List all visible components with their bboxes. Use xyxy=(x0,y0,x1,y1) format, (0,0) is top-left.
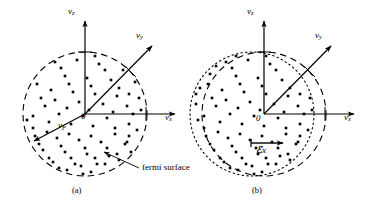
electron-state-point xyxy=(84,147,87,150)
electron-state-point xyxy=(36,83,39,86)
electron-state-point xyxy=(50,89,53,92)
electron-state-point xyxy=(231,145,234,148)
electron-state-point xyxy=(94,93,97,96)
electron-state-point xyxy=(132,113,135,116)
electron-state-point xyxy=(271,141,274,144)
electron-state-point xyxy=(136,129,139,132)
electron-state-point xyxy=(261,135,264,138)
electron-state-point xyxy=(205,135,208,138)
electron-state-point xyxy=(108,155,111,158)
electron-state-point xyxy=(229,167,232,170)
electron-state-point xyxy=(245,163,248,166)
electron-state-point xyxy=(243,91,246,94)
electron-state-point xyxy=(247,59,250,62)
electron-state-point xyxy=(235,151,238,154)
electron-state-point xyxy=(225,61,228,64)
electron-state-point xyxy=(128,135,131,138)
electron-state-point xyxy=(213,149,216,152)
electron-state-point xyxy=(90,171,93,174)
electron-state-point xyxy=(48,157,51,160)
electron-state-point xyxy=(122,69,125,72)
electron-state-point xyxy=(265,93,268,96)
panel-a-caption: (a) xyxy=(72,186,81,195)
panel-b-caption: (b) xyxy=(252,186,262,195)
electron-state-point xyxy=(275,163,278,166)
panel-b-vy-axis-label: vy xyxy=(315,31,322,41)
electron-state-point xyxy=(54,61,57,64)
electron-state-point xyxy=(237,107,240,110)
electron-state-point xyxy=(277,117,280,120)
electron-state-point xyxy=(195,103,198,106)
electron-state-point xyxy=(114,133,117,136)
electron-state-point xyxy=(283,111,286,114)
panel-a-graphic xyxy=(23,21,175,176)
electron-state-point xyxy=(138,97,141,100)
electron-state-point xyxy=(92,125,95,128)
electron-state-point xyxy=(287,95,290,98)
panel-b-field-label: ℰx xyxy=(256,146,266,156)
electron-state-point xyxy=(253,173,256,176)
electron-state-point xyxy=(261,171,264,174)
electron-state-point xyxy=(80,165,83,168)
panel-b-origin-label: 0 xyxy=(256,114,261,123)
electron-state-point xyxy=(104,163,107,166)
electron-state-point xyxy=(54,99,57,102)
electron-state-point xyxy=(239,83,242,86)
electron-state-point xyxy=(38,143,41,146)
electron-state-point xyxy=(82,173,85,176)
electron-state-point xyxy=(126,105,129,108)
electron-state-point xyxy=(106,147,109,150)
panel-a-vz-axis-label: vz xyxy=(68,7,75,17)
electron-state-point xyxy=(299,123,302,126)
electron-state-point xyxy=(110,79,113,82)
electron-state-point xyxy=(128,93,131,96)
electron-state-point xyxy=(263,125,266,128)
electron-state-point xyxy=(203,115,206,118)
electron-state-point xyxy=(221,89,224,92)
panel-a-vy-axis-label: vy xyxy=(136,31,143,41)
electron-state-point xyxy=(44,105,47,108)
electron-state-point xyxy=(60,145,63,148)
electron-state-point xyxy=(241,123,244,126)
electron-state-point xyxy=(257,77,260,80)
electron-state-point xyxy=(209,73,212,76)
panel-b-vy-tick xyxy=(305,67,315,77)
electron-state-point xyxy=(307,129,310,132)
electron-state-point xyxy=(52,161,55,164)
electron-state-point xyxy=(118,87,121,90)
electron-state-point xyxy=(90,85,93,88)
electron-state-point xyxy=(249,101,252,104)
electron-state-point xyxy=(42,149,45,152)
electron-state-point xyxy=(207,83,210,86)
electron-state-point xyxy=(66,169,69,172)
electron-state-point xyxy=(78,101,81,104)
electron-state-point xyxy=(261,85,264,88)
panel-a-fermi-surface-annotation: fermi surface xyxy=(142,163,190,172)
electron-state-point xyxy=(140,109,143,112)
electron-state-point xyxy=(68,83,71,86)
electron-state-point xyxy=(217,131,220,134)
electron-state-point xyxy=(195,93,198,96)
electron-state-point xyxy=(96,163,99,166)
panel-a-vf-label: vF xyxy=(58,121,66,131)
electron-state-point xyxy=(40,97,43,100)
electron-state-point xyxy=(211,97,214,100)
electron-state-point xyxy=(215,105,218,108)
electron-state-point xyxy=(98,63,101,66)
electron-state-point xyxy=(58,113,61,116)
electron-state-point xyxy=(32,115,35,118)
electron-state-point xyxy=(199,87,202,90)
electron-state-point xyxy=(203,127,206,130)
electron-state-point xyxy=(66,107,69,110)
electron-state-point xyxy=(289,159,292,162)
electron-state-point xyxy=(265,55,268,58)
electron-state-point xyxy=(297,141,300,144)
electron-state-point xyxy=(78,139,81,142)
electron-state-point xyxy=(126,141,129,144)
electron-state-point xyxy=(86,153,89,156)
electron-state-point xyxy=(116,95,119,98)
electron-state-point xyxy=(56,137,59,140)
electron-state-point xyxy=(285,127,288,130)
electron-state-point xyxy=(197,119,200,122)
electron-state-point xyxy=(68,133,71,136)
